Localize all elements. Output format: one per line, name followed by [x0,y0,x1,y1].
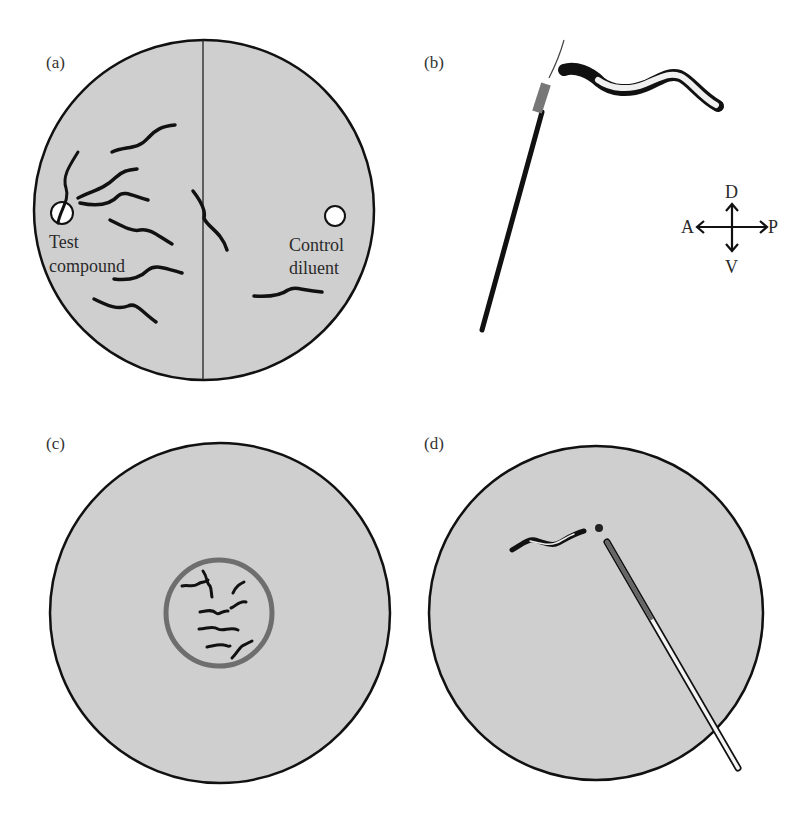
panel-label-d: (d) [424,434,444,453]
panel-b: (b) D V A P [424,40,778,330]
worm-pick-handle [482,112,542,330]
axis-dorsal-label: D [725,182,738,202]
target-dot [595,524,603,532]
worm-pick-sleeve [537,84,546,112]
control-diluent-well [325,206,345,226]
panel-label-c: (c) [46,434,65,453]
control-diluent-label: Control [289,235,344,255]
panel-a: (a) Test compound Control diluent [34,40,374,395]
test-compound-label-2: compound [49,256,125,276]
test-compound-label: Test [49,232,79,252]
orientation-compass [697,204,767,251]
large-worm [564,69,718,106]
panel-c: (c) [46,434,390,783]
control-diluent-label-2: diluent [289,258,339,278]
panel-d: (d) [424,434,763,780]
panel-label-a: (a) [46,53,65,72]
axis-anterior-label: A [681,217,694,237]
panel-label-b: (b) [424,53,444,72]
axis-ventral-label: V [725,257,738,277]
figure-canvas: (a) Test compound Control diluent (b) [0,0,807,823]
axis-posterior-label: P [768,217,778,237]
